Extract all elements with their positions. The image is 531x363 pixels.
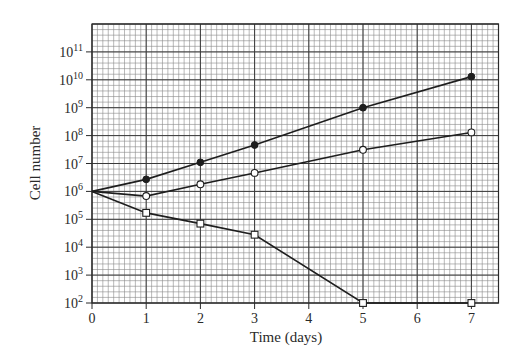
y-tick-label: 108: [64, 126, 83, 144]
x-tick-label: 0: [89, 311, 96, 326]
y-tick-label: 102: [64, 293, 83, 311]
data-point: [143, 209, 150, 216]
data-point: [468, 129, 475, 136]
data-point: [360, 104, 367, 111]
x-tick-label: 2: [197, 311, 204, 326]
x-tick-label: 5: [360, 311, 367, 326]
x-tick-label: 6: [414, 311, 421, 326]
y-tick-label: 104: [64, 237, 83, 255]
y-tick-label: 105: [64, 209, 83, 227]
data-point: [143, 193, 150, 200]
y-tick-label: 103: [64, 265, 83, 283]
data-point: [197, 159, 204, 166]
x-tick-label: 4: [305, 311, 312, 326]
y-tick-label: 1010: [59, 70, 83, 88]
y-axis-ticks: 10210310410510610710810910101011: [59, 42, 92, 311]
data-point: [197, 181, 204, 188]
data-point: [251, 231, 258, 238]
y-tick-label: 106: [64, 181, 83, 199]
data-point: [360, 146, 367, 153]
data-point: [360, 300, 367, 307]
data-point: [197, 220, 204, 227]
data-point: [251, 142, 258, 149]
chart: 01234567 1021031041051061071081091010101…: [0, 0, 531, 363]
data-point: [468, 300, 475, 307]
y-tick-label: 109: [64, 98, 83, 116]
x-tick-label: 3: [251, 311, 258, 326]
y-tick-label: 107: [64, 154, 83, 172]
y-axis-title: Cell number: [27, 126, 43, 201]
y-tick-label: 1011: [59, 42, 83, 60]
x-tick-label: 7: [468, 311, 475, 326]
data-point: [251, 170, 258, 177]
x-axis-title: Time (days): [250, 329, 322, 346]
x-tick-label: 1: [143, 311, 150, 326]
x-axis-ticks: 01234567: [89, 303, 475, 326]
data-point: [143, 176, 150, 183]
data-point: [468, 73, 475, 80]
